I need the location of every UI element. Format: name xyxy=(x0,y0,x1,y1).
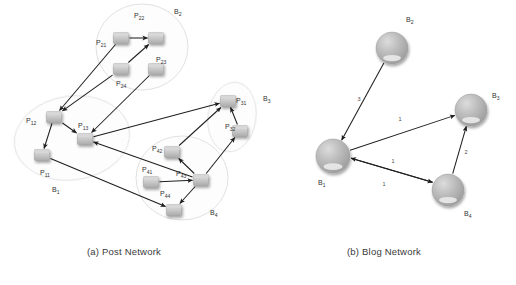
post-node-p23 xyxy=(149,64,164,75)
cluster-label-b1: B1 xyxy=(52,186,60,195)
cluster-label-b4: B4 xyxy=(210,209,218,218)
post-node-p44 xyxy=(167,205,182,216)
post-node-p11 xyxy=(35,150,50,161)
cluster-ellipse-b3 xyxy=(203,79,260,155)
cluster-label-b3: B3 xyxy=(263,95,271,104)
post-node-p41 xyxy=(144,177,159,188)
post-node-p43 xyxy=(194,175,209,186)
blog-edge-weight-b1-b4: 1 xyxy=(391,158,394,164)
blog-node-label-b1: B1 xyxy=(318,179,326,188)
cluster-label-b2: B2 xyxy=(174,8,182,17)
post-node-p42 xyxy=(165,147,180,158)
blog-edge-weight-b1-b3: 1 xyxy=(398,116,401,122)
blog-node-b1 xyxy=(316,139,350,173)
blog-edge-b2-to-b1 xyxy=(342,63,384,140)
caption-blog-network: (b) Blog Network xyxy=(347,246,421,257)
blog-node-b3 xyxy=(455,94,487,126)
blog-edges-group: 31112 xyxy=(342,63,468,187)
post-node-p13 xyxy=(78,134,93,145)
post-node-p22 xyxy=(149,33,164,44)
blog-edge-b1-to-b3 xyxy=(350,115,455,150)
blog-edge-weight-b4-b1: 1 xyxy=(382,181,385,187)
caption-post-network: (a) Post Network xyxy=(87,246,161,257)
blog-node-label-b3: B3 xyxy=(492,92,500,101)
post-node-p12 xyxy=(47,112,62,123)
cluster-ellipse-b1 xyxy=(9,88,136,187)
post-node-p21 xyxy=(114,33,129,44)
network-diagram-svg: B1B2B3B4 P11P12P13P21P22P24P23P31P32P41P… xyxy=(0,0,516,285)
post-node-p31 xyxy=(221,96,236,107)
blog-edge-weight-b4-b3: 2 xyxy=(464,149,467,155)
blog-node-label-b2: B2 xyxy=(406,16,414,25)
figure-container: B1B2B3B4 P11P12P13P21P22P24P23P31P32P41P… xyxy=(0,0,516,285)
blog-node-label-b4: B4 xyxy=(464,210,472,219)
blog-node-b2 xyxy=(376,32,408,64)
post-node-p24 xyxy=(114,64,129,75)
blog-node-b4 xyxy=(432,174,464,206)
blog-edge-weight-b2-b1: 3 xyxy=(357,96,360,102)
